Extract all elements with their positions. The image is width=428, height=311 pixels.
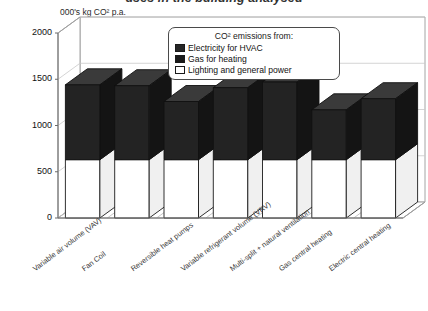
y-axis-tick-label: 2000 (6, 27, 52, 37)
y-axis-tick-label: 500 (6, 166, 52, 176)
bar-6 (312, 94, 369, 218)
legend-swatch-icon (175, 55, 185, 63)
bar-5 (263, 66, 320, 218)
legend-title: CO² emissions from: (175, 31, 333, 41)
bar-4 (213, 72, 269, 218)
bar-7 (361, 83, 418, 218)
legend-swatch-icon (175, 66, 185, 74)
y-axis-tick-label: 1500 (6, 73, 52, 83)
chart-legend: CO² emissions from: Electricity for HVAC… (168, 27, 340, 80)
bar-2 (115, 70, 172, 218)
legend-item-label: Electricity for HVAC (188, 43, 263, 53)
chart-container: uses in the building analysed 000's kg C… (0, 0, 428, 311)
y-axis-tick-label: 0 (6, 212, 52, 222)
legend-item-label: Lighting and general power (188, 65, 292, 75)
legend-item-list: Electricity for HVACGas for heatingLight… (175, 43, 333, 75)
bar-1 (65, 69, 122, 218)
legend-item: Gas for heating (175, 54, 333, 64)
legend-item: Electricity for HVAC (175, 43, 333, 53)
y-axis-tick-label: 1000 (6, 120, 52, 130)
bar-3 (164, 86, 221, 219)
legend-item-label: Gas for heating (188, 54, 247, 64)
legend-swatch-icon (175, 44, 185, 52)
legend-item: Lighting and general power (175, 65, 333, 75)
